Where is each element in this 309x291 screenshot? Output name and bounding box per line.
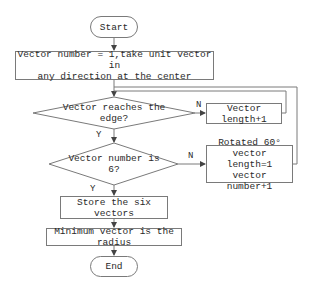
decision-count-yes-label: Y: [90, 184, 95, 194]
init-process-box: Vector number = 1,take unit vector in an…: [15, 51, 214, 80]
flowchart: Start Vector number = 1,take unit vector…: [0, 0, 309, 291]
end-terminator: End: [90, 256, 138, 277]
minimum-label: Minimum vector is the radius: [47, 226, 181, 248]
decision-count-label: Vector number is 6?: [64, 157, 164, 171]
minimum-process-box: Minimum vector is the radius: [46, 228, 182, 246]
store-label: Store the six vectors: [61, 197, 167, 219]
rotate-process-box: Rotated 60° vector length=1 vector numbe…: [206, 145, 293, 183]
decision-edge-label: Vector reaches the edge?: [53, 106, 175, 120]
increment-length-box: Vector length+1: [206, 103, 282, 124]
rotate-label: Rotated 60° vector length=1 vector numbe…: [207, 137, 292, 192]
start-label: Start: [100, 22, 129, 33]
start-terminator: Start: [90, 16, 138, 38]
store-process-box: Store the six vectors: [60, 196, 168, 219]
init-label: Vector number = 1,take unit vector in an…: [16, 49, 213, 82]
increment-length-label: Vector length+1: [207, 103, 281, 125]
decision-edge-yes-label: Y: [96, 130, 101, 140]
end-label: End: [105, 261, 122, 272]
decision-edge-no-label: N: [196, 100, 201, 110]
decision-count-no-label: N: [188, 151, 193, 161]
